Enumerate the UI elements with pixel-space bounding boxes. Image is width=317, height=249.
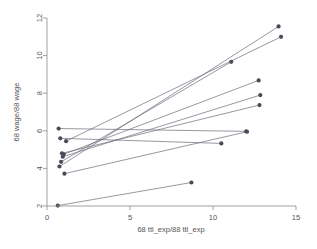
y-tick-label: 2: [35, 204, 44, 208]
data-point: [64, 139, 68, 143]
axis-group: [47, 18, 296, 206]
x-tick-label: 0: [45, 213, 49, 222]
data-point: [60, 151, 64, 155]
data-point: [59, 160, 63, 164]
data-point: [229, 60, 233, 64]
series-line: [59, 26, 278, 166]
y-axis-title: 68 wage/88 wage: [12, 83, 21, 142]
series-line: [64, 132, 247, 174]
x-tick-label: 5: [128, 213, 132, 222]
data-point: [279, 35, 283, 39]
x-tick-group: 051015: [45, 206, 300, 222]
series-line: [64, 80, 259, 154]
x-axis-title: 68 ttl_exp/88 ttl_exp: [137, 225, 204, 234]
data-point: [58, 136, 62, 140]
y-tick-group: 24681012: [35, 14, 47, 208]
data-point: [257, 78, 261, 82]
data-point: [57, 126, 61, 130]
x-tick-label: 10: [209, 213, 217, 222]
series-line: [58, 183, 192, 206]
y-tick-label: 8: [35, 91, 44, 95]
series-line: [66, 37, 281, 141]
series-line: [60, 138, 221, 143]
scatter-plot-figure: 051015 24681012 68 ttl_exp/88 ttl_exp 68…: [0, 0, 317, 249]
data-point: [245, 130, 249, 134]
data-point: [62, 172, 66, 176]
plot-canvas: 051015 24681012 68 ttl_exp/88 ttl_exp 68…: [0, 0, 317, 249]
data-point: [258, 93, 262, 97]
data-point: [219, 141, 223, 145]
data-point: [257, 103, 261, 107]
data-point: [57, 164, 61, 168]
series-group: [56, 24, 283, 207]
data-point: [276, 24, 280, 28]
x-tick-label: 15: [292, 213, 300, 222]
y-tick-label: 12: [35, 14, 44, 22]
data-point: [189, 180, 193, 184]
y-tick-label: 6: [35, 129, 44, 133]
y-tick-label: 10: [35, 51, 44, 59]
y-tick-label: 4: [35, 166, 44, 170]
series-line: [63, 95, 261, 157]
